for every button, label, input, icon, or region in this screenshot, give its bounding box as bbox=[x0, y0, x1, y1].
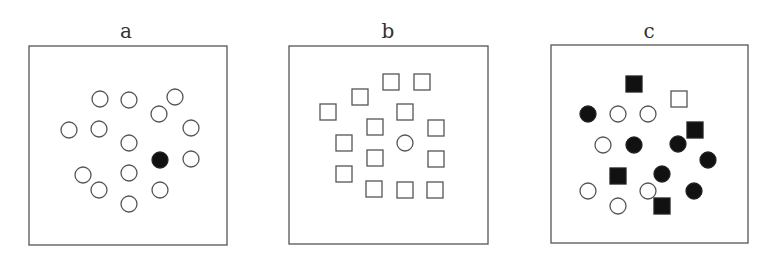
open-square-icon bbox=[367, 150, 383, 166]
panel-label-c: c bbox=[643, 19, 654, 43]
open-circle-icon bbox=[121, 165, 137, 181]
panel-label-a: a bbox=[120, 19, 132, 43]
filled-square-icon bbox=[654, 198, 670, 214]
open-circle-icon bbox=[610, 198, 626, 214]
stimulus-items-b bbox=[320, 74, 444, 198]
filled-circle-icon bbox=[626, 137, 642, 153]
open-circle-icon bbox=[397, 135, 413, 151]
visual-search-figure: a b c bbox=[0, 0, 774, 267]
filled-square-icon bbox=[626, 76, 642, 92]
open-circle-icon bbox=[640, 106, 656, 122]
open-square-icon bbox=[320, 104, 336, 120]
open-square-icon bbox=[414, 74, 430, 90]
open-square-icon bbox=[352, 89, 368, 105]
open-square-icon bbox=[397, 182, 413, 198]
open-circle-icon bbox=[580, 183, 596, 199]
panel-a: a bbox=[29, 19, 227, 245]
panel-b: b bbox=[289, 19, 488, 244]
filled-square-icon bbox=[610, 168, 626, 184]
open-circle-icon bbox=[640, 183, 656, 199]
open-circle-icon bbox=[595, 137, 611, 153]
open-circle-icon bbox=[183, 120, 199, 136]
open-square-icon bbox=[336, 166, 352, 182]
filled-circle-icon bbox=[700, 152, 716, 168]
open-circle-icon bbox=[167, 89, 183, 105]
open-square-icon bbox=[671, 91, 687, 107]
open-circle-icon bbox=[75, 167, 91, 183]
open-circle-icon bbox=[121, 92, 137, 108]
stimulus-items-a bbox=[61, 89, 199, 212]
filled-circle-icon bbox=[654, 166, 670, 182]
open-circle-icon bbox=[91, 121, 107, 137]
panel-label-b: b bbox=[382, 19, 395, 43]
open-square-icon bbox=[367, 119, 383, 135]
open-circle-icon bbox=[152, 182, 168, 198]
open-circle-icon bbox=[121, 196, 137, 212]
filled-square-icon bbox=[687, 122, 703, 138]
stimulus-items-c bbox=[580, 76, 716, 214]
open-circle-icon bbox=[91, 182, 107, 198]
panel-c: c bbox=[551, 19, 748, 243]
open-square-icon bbox=[397, 104, 413, 120]
open-square-icon bbox=[428, 120, 444, 136]
open-square-icon bbox=[366, 181, 382, 197]
filled-circle-icon bbox=[152, 152, 168, 168]
open-circle-icon bbox=[610, 106, 626, 122]
open-square-icon bbox=[428, 151, 444, 167]
open-circle-icon bbox=[121, 135, 137, 151]
open-square-icon bbox=[336, 135, 352, 151]
open-circle-icon bbox=[183, 151, 199, 167]
open-circle-icon bbox=[61, 122, 77, 138]
filled-circle-icon bbox=[580, 106, 596, 122]
filled-circle-icon bbox=[670, 136, 686, 152]
open-circle-icon bbox=[151, 106, 167, 122]
open-square-icon bbox=[383, 74, 399, 90]
open-circle-icon bbox=[92, 91, 108, 107]
filled-circle-icon bbox=[686, 183, 702, 199]
panel-frame-c bbox=[551, 45, 748, 243]
open-square-icon bbox=[427, 182, 443, 198]
